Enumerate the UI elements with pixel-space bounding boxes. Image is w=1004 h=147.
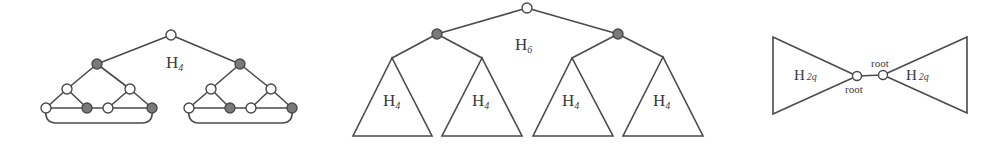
root-vertex (522, 3, 532, 13)
white-vertex (125, 84, 135, 94)
white-vertex (266, 84, 276, 94)
gray-vertex (147, 103, 157, 113)
edge (171, 35, 240, 64)
figure-bowtie: H2q H2q root root (773, 37, 967, 114)
diagram-canvas: H4 H6 H4 H4 H4 H4 H2q H2q root root (0, 0, 1004, 147)
gray-vertex (235, 59, 245, 69)
white-vertex (246, 103, 256, 113)
h4-right-subgraph (184, 59, 297, 123)
gray-vertex (432, 29, 442, 39)
white-vertex (103, 103, 113, 113)
white-vertex (41, 103, 51, 113)
white-vertex (184, 103, 194, 113)
figure-h4: H4 (41, 30, 297, 123)
gray-vertex (613, 29, 623, 39)
gray-vertex (92, 59, 102, 69)
figure-label-h4: H4 (166, 53, 183, 73)
left-root-label: root (845, 83, 863, 95)
right-root-label: root (871, 57, 889, 69)
white-vertex (62, 84, 72, 94)
white-vertex (206, 84, 216, 94)
gray-vertex (287, 103, 297, 113)
root-vertex (166, 30, 176, 40)
gray-vertex (82, 103, 92, 113)
gray-vertex (225, 103, 235, 113)
left-root-vertex (853, 72, 862, 81)
h4-left-subgraph (41, 59, 157, 123)
figure-h6: H6 H4 H4 H4 H4 (353, 3, 703, 136)
figure-label-h6: H6 (515, 35, 532, 55)
right-root-vertex (879, 71, 888, 80)
edge (97, 35, 171, 64)
